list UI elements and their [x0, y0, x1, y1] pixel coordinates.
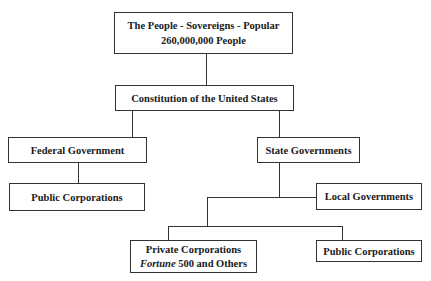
- state-governments-box: State Governments: [257, 137, 360, 163]
- connector-state-down: [279, 163, 280, 198]
- local-public-corporations-box: Public Corporations: [316, 240, 422, 262]
- people-box: The People - Sovereigns - Popular 260,00…: [114, 12, 293, 54]
- connector-constitution-federal: [132, 111, 133, 137]
- connector-branch-horizontal: [168, 226, 343, 227]
- local-label: Local Governments: [325, 189, 413, 204]
- people-line2: 260,000,000 People: [161, 33, 246, 48]
- state-label: State Governments: [265, 143, 351, 158]
- federal-government-box: Federal Government: [8, 137, 147, 163]
- federal-label: Federal Government: [31, 143, 125, 158]
- connector-to-private: [168, 226, 169, 240]
- connector-constitution-state: [279, 111, 280, 137]
- connector-to-public-right: [342, 226, 343, 240]
- connector-state-local: [207, 197, 316, 198]
- connector-federal-public: [78, 163, 79, 183]
- constitution-label: Constitution of the United States: [131, 91, 277, 106]
- private-line2: Fortune 500 and Others: [140, 257, 247, 271]
- people-line1: The People - Sovereigns - Popular: [128, 18, 280, 33]
- constitution-box: Constitution of the United States: [115, 85, 294, 111]
- connector-branch-down: [207, 197, 208, 226]
- local-public-corporations-label: Public Corporations: [323, 244, 414, 259]
- connector-people-constitution: [206, 54, 207, 85]
- private-corporations-box: Private Corporations Fortune 500 and Oth…: [130, 240, 257, 273]
- federal-public-corporations-box: Public Corporations: [9, 183, 145, 211]
- local-governments-box: Local Governments: [316, 183, 422, 210]
- private-line1: Private Corporations: [146, 243, 241, 257]
- fortune-italic: Fortune: [140, 258, 176, 269]
- federal-public-corporations-label: Public Corporations: [31, 190, 122, 205]
